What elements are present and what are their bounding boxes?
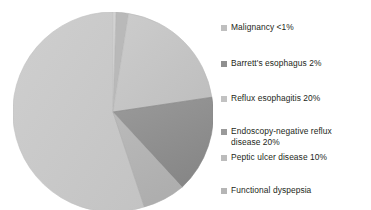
legend-swatch-icon — [221, 188, 227, 194]
legend-item-label: Peptic ulcer disease 10% — [231, 152, 327, 163]
legend-item-functional-dyspepsia[interactable]: Functional dyspepsia — [221, 185, 371, 196]
legend-item-label: Malignancy <1% — [231, 22, 294, 33]
pie-chart-figure: Malignancy <1% Barrett's esophagus 2% Re… — [0, 0, 371, 210]
legend-item-malignancy[interactable]: Malignancy <1% — [221, 22, 371, 33]
legend-swatch-icon — [221, 25, 227, 31]
legend-item-label: Barrett's esophagus 2% — [231, 58, 322, 69]
legend-item-endoscopy-negative-reflux-disease[interactable]: Endoscopy-negative reflux disease 20% — [221, 126, 371, 147]
pie-slice-reflux-esophagitis — [113, 14, 212, 113]
legend-swatch-icon — [221, 96, 227, 102]
pie-svg — [13, 12, 213, 210]
legend-item-label: Functional dyspepsia — [231, 185, 311, 196]
legend-swatch-icon — [221, 155, 227, 161]
legend-swatch-icon — [221, 129, 227, 135]
legend-item-label: Endoscopy-negative reflux disease 20% — [231, 126, 332, 147]
pie-plot-area — [0, 0, 218, 210]
chart-legend: Malignancy <1% Barrett's esophagus 2% Re… — [219, 0, 371, 210]
legend-item-peptic-ulcer-disease[interactable]: Peptic ulcer disease 10% — [221, 152, 371, 163]
legend-item-barretts-esophagus[interactable]: Barrett's esophagus 2% — [221, 58, 371, 69]
legend-swatch-icon — [221, 61, 227, 67]
legend-item-reflux-esophagitis[interactable]: Reflux esophagitis 20% — [221, 93, 371, 104]
legend-item-label: Reflux esophagitis 20% — [231, 93, 320, 104]
